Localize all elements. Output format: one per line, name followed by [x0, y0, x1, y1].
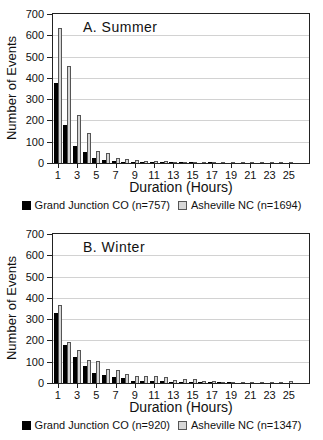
bar-asheville-h18: [221, 162, 225, 163]
y-tick-label-300: 300: [0, 313, 44, 325]
bar-asheville-h5: [96, 151, 100, 163]
y-tick-mark-100: [47, 142, 52, 143]
bar-asheville-h18: [221, 382, 225, 383]
gridline-300: [53, 99, 309, 100]
plot-area-winter: B. Winter: [52, 233, 310, 384]
panel-title-winter: B. Winter: [83, 239, 145, 255]
x-axis-label-winter: Duration (Hours): [52, 399, 310, 415]
bar-asheville-h2: [67, 342, 71, 384]
gridline-500: [53, 277, 309, 278]
bar-asheville-h10: [144, 161, 148, 163]
y-tick-mark-500: [47, 277, 52, 278]
y-tick-label-400: 400: [0, 72, 44, 84]
x-tick-mark-3: [77, 164, 78, 168]
legend-swatch-gray-icon: [178, 421, 187, 430]
gridline-100: [53, 142, 309, 143]
bar-asheville-h14: [183, 379, 187, 383]
bar-asheville-h2: [67, 66, 71, 163]
x-tick-label-23: 23: [263, 169, 275, 181]
x-tick-mark-1: [58, 164, 59, 168]
x-tick-mark-15: [193, 164, 194, 168]
gridline-400: [53, 298, 309, 299]
bar-asheville-h14: [183, 162, 187, 163]
x-tick-mark-25: [289, 164, 290, 168]
y-tick-mark-600: [47, 35, 52, 36]
bar-asheville-h8: [125, 374, 129, 383]
legend-label-grand-junction: Grand Junction CO (n=757): [35, 199, 170, 211]
x-tick-label-21: 21: [244, 389, 256, 401]
y-tick-label-500: 500: [0, 271, 44, 283]
y-tick-label-200: 200: [0, 334, 44, 346]
gridline-500: [53, 57, 309, 58]
bar-asheville-h6: [106, 369, 110, 383]
y-tick-label-0: 0: [0, 377, 44, 389]
y-tick-mark-200: [47, 120, 52, 121]
x-tick-mark-9: [135, 384, 136, 388]
x-tick-mark-7: [116, 164, 117, 168]
bar-asheville-h20: [241, 382, 245, 383]
bar-asheville-h4: [87, 360, 91, 383]
bar-asheville-h8: [125, 159, 129, 163]
x-tick-label-3: 3: [74, 169, 80, 181]
x-tick-label-15: 15: [186, 169, 198, 181]
x-tick-label-25: 25: [283, 389, 295, 401]
y-tick-mark-0: [47, 383, 52, 384]
legend-swatch-black-icon: [22, 421, 31, 430]
y-tick-label-600: 600: [0, 29, 44, 41]
legend-item-asheville: Asheville NC (n=1347): [178, 419, 301, 431]
gridline-600: [53, 35, 309, 36]
bar-asheville-h3: [77, 115, 81, 163]
x-tick-mark-15: [193, 384, 194, 388]
legend-swatch-gray-icon: [178, 201, 187, 210]
y-tick-mark-300: [47, 319, 52, 320]
x-tick-label-21: 21: [244, 169, 256, 181]
x-tick-label-19: 19: [225, 389, 237, 401]
bar-asheville-h11: [154, 376, 158, 383]
bar-asheville-h12: [164, 161, 168, 163]
plot-area-summer: A. Summer: [52, 13, 310, 164]
x-tick-mark-11: [154, 384, 155, 388]
x-tick-mark-5: [96, 384, 97, 388]
legend-label-asheville: Asheville NC (n=1694): [191, 199, 301, 211]
legend-label-asheville: Asheville NC (n=1347): [191, 419, 301, 431]
y-tick-mark-200: [47, 340, 52, 341]
bar-asheville-h25: [289, 162, 293, 163]
bar-asheville-h21: [250, 382, 254, 383]
x-axis-label-summer: Duration (Hours): [52, 179, 310, 195]
y-tick-mark-400: [47, 298, 52, 299]
bar-asheville-h17: [212, 381, 216, 383]
x-tick-mark-17: [212, 164, 213, 168]
legend-winter: Grand Junction CO (n=920) Asheville NC (…: [0, 419, 323, 431]
x-tick-label-3: 3: [74, 389, 80, 401]
bar-asheville-h6: [106, 153, 110, 163]
x-tick-label-13: 13: [167, 389, 179, 401]
y-tick-label-500: 500: [0, 51, 44, 63]
y-tick-mark-300: [47, 99, 52, 100]
x-tick-mark-17: [212, 384, 213, 388]
x-tick-mark-11: [154, 164, 155, 168]
bar-asheville-h1: [58, 305, 62, 383]
gridline-400: [53, 78, 309, 79]
bar-asheville-h11: [154, 161, 158, 163]
bar-asheville-h16: [202, 381, 206, 383]
x-tick-mark-21: [250, 164, 251, 168]
y-tick-mark-500: [47, 57, 52, 58]
bar-asheville-h21: [250, 162, 254, 163]
x-tick-label-19: 19: [225, 169, 237, 181]
x-tick-label-25: 25: [283, 169, 295, 181]
y-tick-label-700: 700: [0, 8, 44, 20]
y-tick-label-0: 0: [0, 157, 44, 169]
bar-asheville-h19: [231, 382, 235, 383]
panel-summer: Number of Events A. Summer Duration (Hou…: [0, 0, 323, 220]
x-tick-label-7: 7: [112, 169, 118, 181]
y-tick-mark-100: [47, 362, 52, 363]
gridline-300: [53, 319, 309, 320]
bar-asheville-h25: [289, 381, 293, 383]
x-tick-label-15: 15: [186, 389, 198, 401]
y-tick-label-300: 300: [0, 93, 44, 105]
bar-asheville-h5: [96, 361, 100, 383]
y-tick-mark-600: [47, 255, 52, 256]
y-tick-label-100: 100: [0, 356, 44, 368]
gridline-100: [53, 362, 309, 363]
x-tick-mark-7: [116, 384, 117, 388]
